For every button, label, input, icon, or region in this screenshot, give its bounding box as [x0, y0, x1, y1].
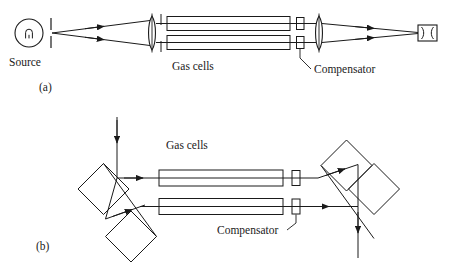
compensator-leader-b	[287, 215, 296, 231]
panel-a-caption: (a)	[39, 81, 52, 94]
compensator-label-a: Compensator	[314, 63, 375, 76]
source-lamp-icon	[15, 19, 43, 47]
gas-cells-label-a: Gas cells	[172, 60, 214, 72]
figure-canvas: Source Gas cells Compensator (a)	[0, 0, 453, 267]
panel-b-caption: (b)	[36, 240, 50, 253]
gas-cells-label-b: Gas cells	[166, 139, 208, 151]
compensator-label-b: Compensator	[217, 224, 278, 237]
compensator-leader-a	[300, 49, 311, 69]
recombiner-prism-b	[321, 140, 400, 239]
beam-source-to-lens	[52, 21, 150, 46]
focusing-lens-icon	[316, 14, 323, 53]
source-label: Source	[9, 56, 41, 68]
panel-a: Source Gas cells Compensator (a)	[9, 14, 437, 95]
collimating-lens-icon	[149, 14, 156, 53]
beam-lens-to-eyepiece	[322, 24, 418, 43]
eyepiece-icon	[418, 25, 437, 41]
beam-through-cells-a	[156, 24, 316, 43]
interferometer-figure: Source Gas cells Compensator (a)	[0, 0, 453, 267]
panel-b: Gas cells Compensator (b)	[36, 117, 400, 262]
